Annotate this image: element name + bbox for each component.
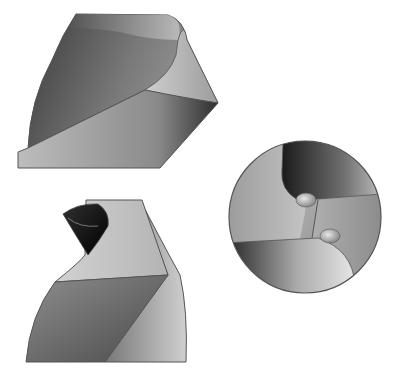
drill-front-view <box>26 200 186 362</box>
end-top-flute <box>282 138 395 200</box>
end-bottom-flute <box>225 238 355 300</box>
end-lower-nub <box>320 229 340 243</box>
end-upper-nub <box>296 193 316 207</box>
drill-end-view <box>225 138 395 300</box>
drill-side-view <box>18 14 218 168</box>
drill-bit-illustration <box>0 0 416 375</box>
